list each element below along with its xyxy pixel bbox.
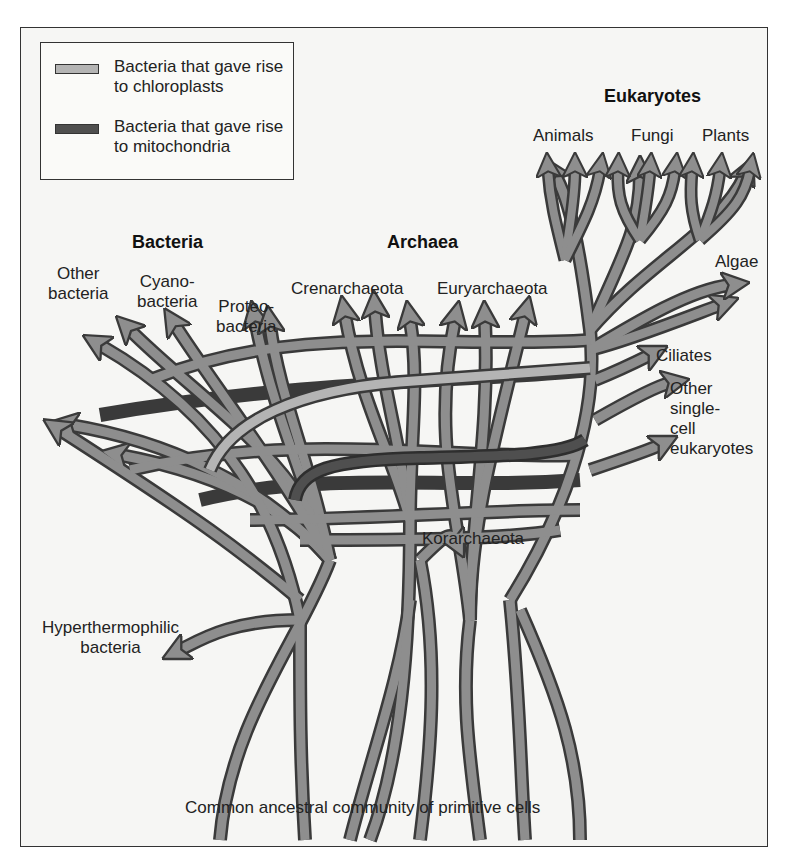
label-animals: Animals [533, 126, 593, 146]
label-common-ancestral-community: Common ancestral community of primitive … [185, 798, 540, 818]
label-algae: Algae [715, 252, 758, 272]
legend-label-chloroplasts: Bacteria that gave rise to chloroplasts [114, 57, 284, 97]
label-euryarchaeota: Euryarchaeota [437, 279, 548, 299]
label-other-bacteria: Otherbacteria [48, 264, 108, 304]
chloroplast-swatch-icon [55, 64, 99, 74]
legend-label-mitochondria: Bacteria that gave rise to mitochondria [114, 117, 284, 157]
label-crenarchaeota: Crenarchaeota [291, 279, 403, 299]
legend-item-chloroplasts: Bacteria that gave rise to chloroplasts [55, 57, 284, 97]
label-fungi: Fungi [631, 126, 674, 146]
legend: Bacteria that gave rise to chloroplasts … [40, 42, 294, 180]
label-plants: Plants [702, 126, 749, 146]
label-hyperthermophilic-bacteria: Hyperthermophilicbacteria [42, 618, 179, 658]
label-korarchaeota: Korarchaeota [422, 529, 524, 549]
group-label-eukaryotes: Eukaryotes [604, 86, 701, 107]
legend-item-mitochondria: Bacteria that gave rise to mitochondria [55, 117, 284, 157]
label-cyanobacteria: Cyano-bacteria [137, 272, 197, 312]
group-label-archaea: Archaea [387, 232, 458, 253]
label-other-single-cell-eukaryotes: Other single- cell eukaryotes [670, 379, 753, 459]
label-proteobacteria: Proteo-bacteria [216, 297, 276, 337]
label-ciliates: Ciliates [656, 346, 712, 366]
group-label-bacteria: Bacteria [132, 232, 203, 253]
mitochondria-swatch-icon [55, 124, 99, 134]
